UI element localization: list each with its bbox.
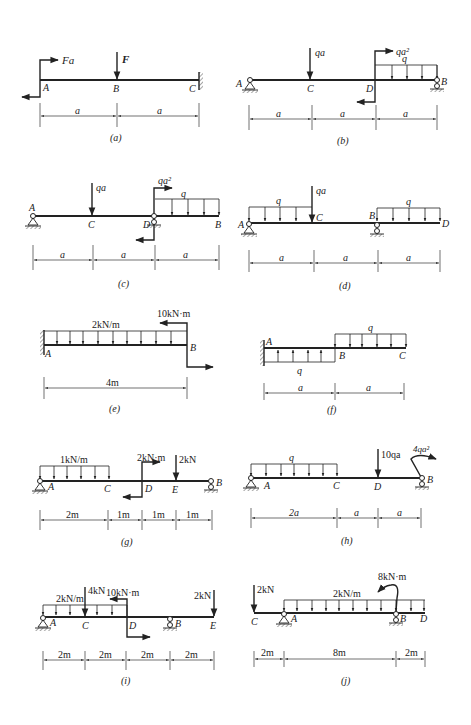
distributed-load-icon: [375, 65, 437, 79]
dimension-label: 2m: [141, 649, 154, 660]
load-label: q: [297, 365, 302, 376]
figure-caption: (a): [110, 132, 122, 144]
figure-caption: (d): [339, 280, 351, 292]
load-label: 2kN/m: [92, 319, 120, 330]
distributed-load-icon: [44, 331, 187, 344]
dimension-label: a: [276, 108, 281, 119]
dimension-label: 8m: [333, 647, 346, 658]
svg-text:A: A: [47, 481, 55, 492]
svg-text:D: D: [373, 481, 382, 492]
figure-d: A q qa C B q D: [237, 185, 450, 292]
load-label: q: [181, 188, 186, 199]
svg-text:D: D: [144, 483, 153, 494]
figure-caption: (j): [341, 675, 351, 687]
dimension-label: a: [403, 108, 408, 119]
load-label: 2kN/m: [56, 593, 84, 604]
dimension-label: a: [279, 252, 284, 263]
svg-text:A: A: [44, 348, 52, 359]
figure-a: Fa F A B C a a (a): [22, 52, 203, 144]
svg-text:B: B: [215, 219, 221, 230]
svg-text:C: C: [104, 483, 111, 494]
figure-caption: (f): [327, 404, 337, 416]
moment-arrow-icon: [160, 323, 187, 345]
beam-diagrams-figure: Fa F A B C a a (a) A qa C: [0, 0, 471, 725]
load-label: qa: [96, 182, 106, 193]
figure-i: A 2kN/m 4kN C 10kN·m D B 2kN E: [35, 585, 216, 687]
load-label: 4qa²: [413, 444, 430, 454]
svg-text:A: A: [235, 78, 243, 89]
figure-h: A q C 10qa D 4qa² B: [243, 444, 436, 547]
svg-text:A: A: [49, 617, 57, 628]
dimension-label: a: [340, 108, 345, 119]
svg-text:B: B: [339, 350, 345, 361]
dimension-label: a: [343, 252, 348, 263]
svg-text:A: A: [290, 613, 298, 624]
dimension-label: a: [75, 105, 80, 116]
svg-text:A: A: [237, 219, 245, 230]
figure-b: A qa C qa² D q B: [235, 46, 447, 147]
dimension-label: 1m: [117, 509, 130, 520]
figure-caption: (c): [118, 278, 130, 290]
dimension-label: a: [183, 249, 188, 260]
figure-c: A qa C qa² D q B a a a: [25, 175, 221, 290]
svg-text:C: C: [333, 480, 340, 491]
load-label: 4kN: [88, 585, 105, 596]
dimension-label: a: [406, 252, 411, 263]
moment-arrow-icon: [22, 80, 40, 97]
load-label: F: [121, 53, 130, 65]
dimension-label: a: [157, 105, 162, 116]
load-label: 2kN: [179, 454, 196, 465]
svg-text:A: A: [28, 202, 36, 213]
load-label: q: [289, 452, 294, 463]
svg-text:B: B: [175, 618, 181, 629]
load-label: q: [276, 195, 281, 206]
moment-arrow-icon: [142, 462, 160, 481]
svg-text:B: B: [113, 83, 119, 94]
dimension-label: a: [298, 382, 303, 393]
dimension-label: a: [366, 382, 371, 393]
svg-text:C: C: [189, 83, 196, 94]
moment-arrow-icon: [110, 599, 127, 617]
distributed-load-icon: [40, 466, 109, 479]
load-label: 1kN/m: [60, 454, 88, 465]
load-label: q: [368, 322, 373, 333]
distributed-load-icon: [377, 208, 440, 221]
svg-text:B: B: [427, 474, 433, 485]
dimension-label: 2m: [99, 649, 112, 660]
svg-text:B: B: [441, 76, 447, 87]
dimension-label: 1m: [152, 509, 165, 520]
figure-caption: (g): [121, 536, 133, 548]
load-label: Fa: [61, 54, 75, 66]
roller-support-icon: [370, 223, 384, 238]
distributed-load-up-icon: [264, 349, 335, 362]
load-label: qa: [315, 47, 325, 58]
dimension-label: 2a: [289, 507, 299, 518]
svg-text:C: C: [399, 350, 406, 361]
svg-text:A: A: [42, 82, 50, 93]
figure-g: A 1kN/m C 2kN·m D 2kN E B: [32, 452, 222, 548]
svg-text:C: C: [88, 219, 95, 230]
load-label: 8kN·m: [378, 571, 407, 582]
svg-text:D: D: [128, 620, 137, 631]
dimension-label: 4m: [106, 377, 119, 388]
svg-text:B: B: [369, 210, 375, 221]
moment-arrow-icon: [154, 188, 172, 216]
dimension-label: a: [121, 249, 126, 260]
distributed-load-icon: [155, 199, 219, 215]
svg-text:C: C: [307, 83, 314, 94]
load-label: qa²: [158, 175, 172, 186]
svg-text:B: B: [190, 342, 196, 353]
dimension-label: 2m: [58, 649, 71, 660]
load-label: 2kN·m: [137, 452, 166, 463]
load-label: 2kN/m: [333, 588, 361, 599]
figure-caption: (h): [341, 535, 353, 547]
svg-text:C: C: [82, 620, 89, 631]
dimension-label: a: [60, 249, 65, 260]
load-label: 10kN·m: [106, 587, 140, 598]
dimension-label: a: [354, 507, 359, 518]
svg-text:B: B: [216, 477, 222, 488]
dimension-label: 2m: [261, 647, 274, 658]
svg-text:B: B: [400, 613, 406, 624]
load-label: 2kN: [194, 590, 211, 601]
distributed-load-icon: [249, 207, 312, 221]
